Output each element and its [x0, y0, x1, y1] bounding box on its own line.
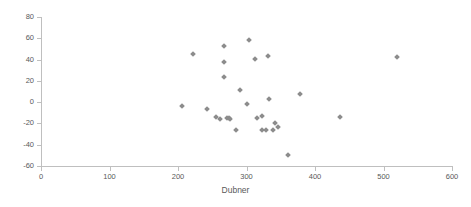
data-point [246, 38, 252, 44]
data-point [179, 104, 185, 110]
data-point [221, 74, 227, 80]
y-axis-tick-label: -20 [8, 118, 34, 127]
data-point [190, 51, 196, 57]
y-axis-title: Residuals [0, 18, 12, 98]
x-axis-tick [110, 167, 111, 171]
data-point [252, 56, 258, 62]
data-point [265, 54, 271, 60]
x-axis-title: Dubner [0, 185, 471, 195]
data-point [233, 127, 239, 133]
x-axis-tick [178, 167, 179, 171]
x-axis-tick-label: 100 [90, 172, 130, 181]
x-axis-tick [452, 167, 453, 171]
x-axis-tick-label: 600 [432, 172, 471, 181]
x-axis-tick-label: 300 [227, 172, 267, 181]
data-point [227, 116, 233, 122]
data-point [266, 96, 272, 102]
data-point [221, 43, 227, 49]
data-point [221, 59, 227, 65]
x-axis-tick [384, 167, 385, 171]
data-point [244, 101, 250, 107]
y-axis-tick-label: -60 [8, 161, 34, 170]
x-axis-tick-label: 400 [295, 172, 335, 181]
y-axis-tick-label: -40 [8, 140, 34, 149]
data-point [275, 124, 281, 130]
data-point [205, 106, 211, 112]
data-point [297, 91, 303, 97]
x-axis-tick [41, 167, 42, 171]
x-axis-tick [315, 167, 316, 171]
data-point [218, 116, 224, 122]
data-point [285, 153, 291, 159]
plot-area [41, 17, 452, 166]
data-point [237, 88, 243, 94]
data-point [394, 55, 400, 61]
data-point [337, 114, 343, 120]
y-axis-tick-label: 0 [8, 97, 34, 106]
x-axis-tick [247, 167, 248, 171]
x-axis-tick-label: 500 [364, 172, 404, 181]
data-point [264, 127, 270, 133]
data-point [270, 127, 276, 133]
x-axis-tick-label: 0 [21, 172, 61, 181]
scatter-chart: -60-40-20020406080 0100200300400500600 R… [0, 0, 471, 207]
x-axis-tick-label: 200 [158, 172, 198, 181]
